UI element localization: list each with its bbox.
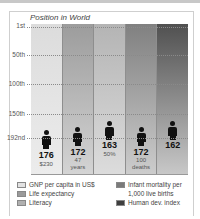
legend-label-literacy: Literacy xyxy=(29,199,52,206)
legend-label-infant-2: 1,000 live births xyxy=(128,190,174,197)
legend-label-life: Life expectancy xyxy=(29,190,74,197)
rank-value: 172 xyxy=(63,147,94,157)
metric-value: 47 xyxy=(63,157,94,164)
legend-label-infant: Infant mortality per xyxy=(128,181,182,188)
legend-swatch-hdi xyxy=(116,200,125,206)
rank-value: 172 xyxy=(126,147,157,157)
metric-value: 100 xyxy=(126,157,157,164)
gridline xyxy=(27,114,188,115)
person-icon xyxy=(73,127,83,146)
metric-unit: years xyxy=(63,164,94,171)
column-human-dev-index: 162 xyxy=(157,24,188,174)
column-infant-mortality: 172 100 deaths xyxy=(126,24,158,174)
y-tick-label: 50th xyxy=(0,51,25,58)
person-icon xyxy=(41,130,51,149)
y-tick-label: 1st xyxy=(0,22,25,29)
chart-title: Position in World xyxy=(30,13,90,22)
legend-swatch-life xyxy=(17,191,26,197)
legend-label-hdi: Human dev. index xyxy=(128,199,180,206)
rank-value: 162 xyxy=(157,140,188,150)
rank-value: 163 xyxy=(94,140,125,150)
rank-value: 176 xyxy=(31,150,62,160)
person-icon xyxy=(136,127,146,146)
legend-swatch-gnp xyxy=(17,182,26,188)
gridline xyxy=(27,55,188,56)
gridline xyxy=(27,27,188,28)
y-tick-label: 192nd xyxy=(0,134,25,141)
legend-swatch-literacy xyxy=(17,200,26,206)
legend-swatch-infant xyxy=(116,182,125,188)
column-literacy: 163 50% xyxy=(94,24,126,174)
plot-area: 176 $230 172 47 years 163 50% 172 100 de… xyxy=(31,24,188,175)
y-tick-label: 100th xyxy=(0,80,25,87)
metric-value: $230 xyxy=(31,161,62,168)
column-life-expectancy: 172 47 years xyxy=(63,24,95,174)
metric-value: 50% xyxy=(94,151,125,158)
metric-unit: deaths xyxy=(126,164,157,171)
top-bar xyxy=(0,0,200,3)
gridline xyxy=(27,138,188,139)
gridline xyxy=(27,84,188,85)
legend-label-gnp: GNP per capita in US$ xyxy=(29,181,95,188)
y-tick-label: 150th xyxy=(0,110,25,117)
column-gnp: 176 $230 xyxy=(31,24,63,174)
